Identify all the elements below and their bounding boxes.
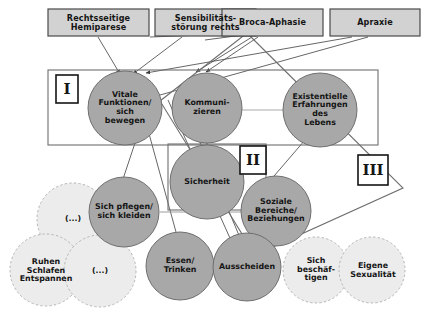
top-box-0 bbox=[48, 9, 149, 36]
roman-plaque-ii bbox=[240, 146, 266, 174]
edge-apraxie-to-vitale bbox=[146, 37, 352, 73]
edge-sensibilitaet-to-vitale bbox=[133, 37, 182, 74]
edge-hemiparese-to-vitale bbox=[98, 37, 120, 74]
top-box-shapes bbox=[48, 9, 420, 36]
light-circle-4 bbox=[339, 237, 405, 303]
roman-plaque-iii bbox=[358, 155, 388, 185]
diagram-vector-layer bbox=[0, 0, 427, 316]
dark-circle-4 bbox=[89, 177, 159, 247]
dark-circle-1 bbox=[172, 73, 242, 143]
diagram-canvas: Rechtsseitige Hemiparese Sensibilitäts- … bbox=[0, 0, 427, 316]
dark-circle-7 bbox=[213, 233, 281, 301]
top-box-2 bbox=[222, 9, 323, 36]
dark-circle-6 bbox=[146, 232, 214, 300]
dark-circle-2 bbox=[283, 73, 357, 147]
roman-plaque-i bbox=[56, 75, 78, 103]
dark-circle-3 bbox=[170, 145, 244, 219]
dark-circle-0 bbox=[88, 71, 162, 145]
top-box-3 bbox=[330, 9, 420, 36]
